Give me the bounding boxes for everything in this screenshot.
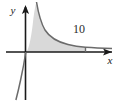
x-axis-label: x (107, 54, 113, 66)
math-figure: y x 10 (0, 0, 125, 101)
curve-left-branch (16, 52, 26, 100)
y-axis-label: y (10, 4, 16, 16)
graph-canvas: y x 10 (0, 0, 125, 101)
upper-limit-label: 10 (73, 22, 85, 36)
